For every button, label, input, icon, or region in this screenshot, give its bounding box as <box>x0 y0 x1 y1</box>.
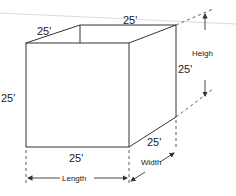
top-left-edge <box>26 25 80 43</box>
label-bottom-front: 25' <box>69 152 83 164</box>
label-bottom-right-depth: 25' <box>147 136 161 148</box>
label-width-dimension: Width <box>141 158 161 167</box>
front-face <box>26 43 129 147</box>
label-left-height: 25' <box>1 92 15 104</box>
box-diagram: 25' 25' 25' 25' 25' 25' Heigh Width Leng… <box>0 0 236 196</box>
top-right-edge <box>129 25 176 43</box>
label-height-dimension: Heigh <box>192 49 213 58</box>
extension-lines <box>26 9 213 183</box>
dimension-arrows <box>28 14 205 181</box>
label-right-height: 25' <box>178 63 192 75</box>
box-outline <box>26 25 176 147</box>
label-length-dimension: Length <box>62 174 86 183</box>
label-top-back: 25' <box>123 14 137 26</box>
label-top-left-depth: 25' <box>37 25 51 37</box>
